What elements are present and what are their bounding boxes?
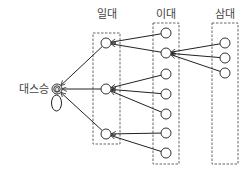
node-gen3-1 [220,38,230,48]
edge-arrow [61,93,102,131]
node-gen3-3 [220,68,230,78]
edge-arrow [61,46,102,85]
edge-arrow [111,136,161,152]
edge-arrow [111,34,161,42]
node-gen2-4 [161,89,171,99]
node-gen2-7 [161,148,171,158]
edge-arrow [111,89,161,93]
edge-arrow [111,91,161,112]
node-gen3-2 [220,53,230,63]
generation-label-3: 삼대 [215,8,235,21]
labels: 일대 이대 삼대 대스승 0 [19,7,235,96]
nodes [52,28,231,158]
node-gen1-2 [101,84,111,94]
edge-arrow [111,44,161,52]
self-loop [52,95,62,111]
generation-label-1: 일대 [97,7,117,21]
node-gen2-1 [161,28,171,38]
node-gen2-5 [161,109,171,119]
node-gen2-3 [161,69,171,79]
node-gen1-3 [101,129,111,139]
root-symbol: 0 [55,86,59,94]
edges [61,34,220,152]
edge-arrow [111,133,161,134]
node-gen2-2 [161,48,171,58]
node-gen2-6 [161,128,171,138]
generation-label-2: 이대 [156,8,176,21]
edge-arrow [111,75,161,87]
root-label: 대스승 [19,83,49,96]
lineage-diagram: 일대 이대 삼대 대스승 0 [0,0,251,174]
node-gen1-1 [101,38,111,48]
